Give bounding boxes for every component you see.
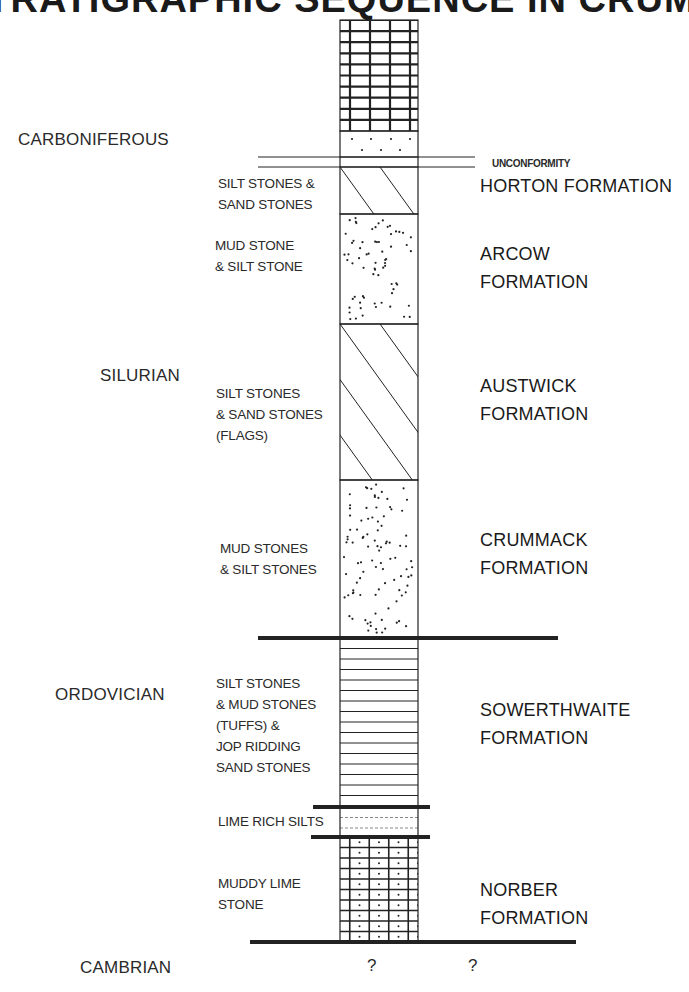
sowerthwaite-formation-unit [340, 638, 418, 807]
carboniferous-sandstone-unit [340, 131, 418, 157]
lime-rich-silts-unit [340, 807, 418, 837]
period-label-silurian: SILURIAN [100, 366, 180, 386]
unconformity-label: UNCONFORMITY [492, 158, 570, 169]
unknown-marker-formation: ? [468, 956, 477, 976]
lithology-label-austwick: SILT STONES & SAND STONES (FLAGS) [216, 383, 323, 446]
lithology-label-crummack: MUD STONES & SILT STONES [220, 538, 316, 580]
formation-label-crummack: CRUMMACK FORMATION [480, 526, 588, 582]
lithology-label-arcow: MUD STONE & SILT STONE [215, 235, 303, 277]
arcow-formation-unit [340, 214, 418, 324]
period-label-cambrian: CAMBRIAN [80, 958, 171, 978]
carboniferous-limestone-unit [340, 20, 418, 131]
formation-label-horton: HORTON FORMATION [480, 172, 672, 200]
lithology-label-norber: MUDDY LIME STONE [218, 873, 301, 915]
period-label-ordovician: ORDOVICIAN [55, 685, 165, 705]
period-label-carboniferous: CARBONIFEROUS [18, 130, 169, 150]
formation-label-austwick: AUSTWICK FORMATION [480, 372, 588, 428]
formation-label-norber: NORBER FORMATION [480, 876, 588, 932]
lithology-label-sowerthwaite: SILT STONES & MUD STONES (TUFFS) & JOP R… [216, 673, 316, 778]
unknown-marker-column: ? [367, 956, 376, 976]
lithology-label-lime-rich-silts: LIME RICH SILTS [218, 811, 324, 832]
lithology-label-horton: SILT STONES & SAND STONES [218, 173, 314, 215]
column-units [220, 20, 652, 942]
crummack-formation-unit [340, 480, 418, 638]
formation-label-arcow: ARCOW FORMATION [480, 240, 588, 296]
norber-formation-unit [340, 837, 419, 942]
formation-label-sowerthwaite: SOWERTHWAITE FORMATION [480, 696, 630, 752]
